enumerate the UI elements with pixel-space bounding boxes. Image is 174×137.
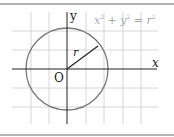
y-axis-label: y <box>70 9 77 23</box>
origin-label: O <box>54 71 64 85</box>
equation-label: x2 + y2 = r2 <box>94 13 156 27</box>
radius-line <box>67 46 98 69</box>
x-axis-label: x <box>152 56 159 70</box>
grid <box>12 12 158 124</box>
radius-label: r <box>73 46 78 59</box>
